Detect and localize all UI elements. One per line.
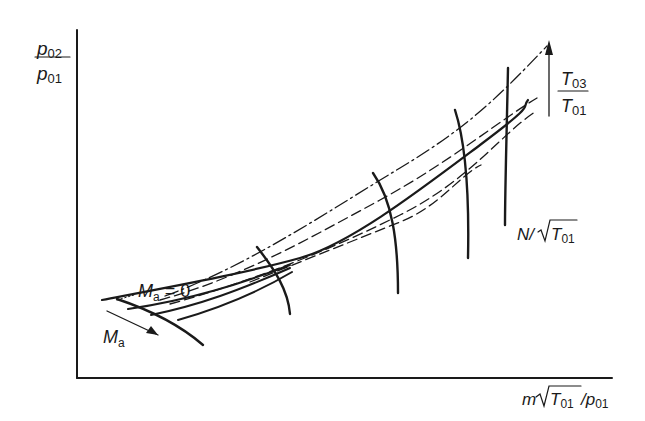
svg-text:T03: T03 [561,69,586,91]
temp-ratio-label: T03 T01 [558,69,588,118]
svg-text:T01: T01 [561,96,586,118]
x-axis-label: m T01 /p01 [522,386,609,411]
svg-text:T01: T01 [550,390,574,411]
svg-text:T01: T01 [551,225,575,246]
running-line-ma0 [102,100,528,300]
svg-text:N/: N/ [517,225,536,244]
surge-line [165,46,547,296]
ma-arrow: Ma [103,311,158,350]
speed-label: N/ T01 [517,220,577,246]
speed-line-5 [505,68,508,225]
compressor-characteristic-diagram: p02 p01 m T01 /p01 Ma = 0 Ma T03 T01 [0,0,645,421]
speed-line-3 [373,173,398,293]
svg-text:m: m [522,390,536,409]
temp-ratio-line-upper [160,98,537,300]
ma-arrow-label: Ma [103,327,125,350]
y-axis-label: p02 p01 [35,38,70,86]
speed-line-4 [455,110,468,258]
svg-text:p01: p01 [36,63,62,86]
temp-ratio-arrow [545,40,553,116]
svg-text:/p01: /p01 [580,390,609,411]
temp-ratio-line-short [250,165,481,282]
ma0-label: Ma = 0 [138,281,190,304]
